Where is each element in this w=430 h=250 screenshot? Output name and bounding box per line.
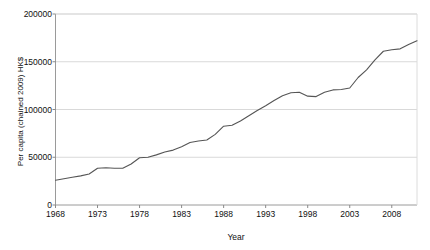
tick-marks (53, 14, 392, 208)
plot-area (0, 0, 430, 250)
gridlines (56, 14, 418, 157)
chart-container: Per capita (chained 2009) HK$ 0500001000… (0, 0, 430, 250)
